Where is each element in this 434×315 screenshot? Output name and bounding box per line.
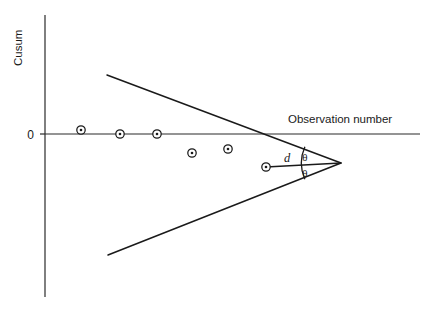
angle-label-lower: θ <box>302 167 307 179</box>
zero-tick-label: 0 <box>27 128 34 142</box>
figure-canvas: Cusum 0 Observation number d θ θ <box>0 0 434 315</box>
data-point <box>153 130 161 138</box>
x-axis-label: Observation number <box>288 113 392 125</box>
data-point <box>262 163 270 171</box>
data-point <box>224 145 232 153</box>
y-axis-label: Cusum <box>12 30 24 66</box>
data-point <box>188 149 196 157</box>
data-point-series <box>77 126 270 171</box>
lead-distance-label: d <box>284 151 291 165</box>
cusum-v-mask-figure: Cusum 0 Observation number d θ θ <box>0 0 434 315</box>
angle-label-upper: θ <box>302 151 307 163</box>
data-point <box>77 126 85 134</box>
data-point <box>116 130 124 138</box>
